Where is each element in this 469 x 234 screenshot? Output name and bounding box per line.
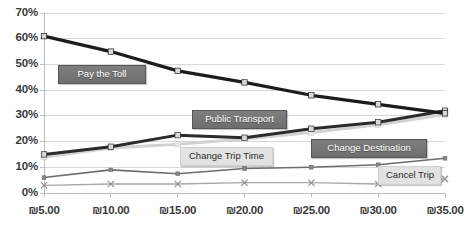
y-axis-tick-label: 50%: [0, 57, 38, 69]
series-data-label: Change Destination: [311, 139, 427, 158]
series-data-label: Public Transport: [192, 110, 287, 129]
series-data-label: Pay the Toll: [58, 65, 146, 84]
y-axis-tick-label: 10%: [0, 160, 38, 172]
x-axis-tick-label: ₪20.00: [214, 204, 276, 216]
series-data-label: Change Trip Time: [180, 147, 273, 166]
y-axis-tick-label: 20%: [0, 134, 38, 146]
x-axis-tick-label: ₪30.00: [347, 204, 409, 216]
series-data-label: Cancel Trip: [378, 166, 441, 185]
x-axis-tick-label: ₪25.00: [280, 204, 342, 216]
y-axis-tick-label: 30%: [0, 108, 38, 120]
x-axis-tick-label: ₪15.00: [147, 204, 209, 216]
y-axis-tick-label: 40%: [0, 83, 38, 95]
x-axis-tick-label: ₪10.00: [80, 204, 142, 216]
y-axis-tick-label: 0%: [0, 186, 38, 198]
x-axis-tick-label: ₪5.00: [13, 204, 75, 216]
y-axis-tick-label: 70%: [0, 6, 38, 18]
x-axis-tick-label: ₪35.00: [414, 204, 469, 216]
y-axis-tick-label: 60%: [0, 31, 38, 43]
